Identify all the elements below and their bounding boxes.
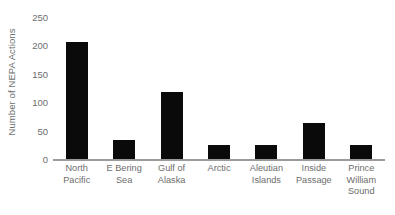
bar [66, 42, 88, 160]
y-tick-label: 0 [18, 155, 48, 165]
y-tick-label: 50 [18, 127, 48, 137]
x-axis-labels: North PacificE Bering SeaGulf of AlaskaA… [53, 163, 385, 213]
y-tick-label: 250 [18, 13, 48, 23]
y-tick-label: 150 [18, 70, 48, 80]
bar [113, 140, 135, 160]
bar [208, 145, 230, 160]
bar [161, 92, 183, 160]
bar [303, 123, 325, 160]
plot-area [53, 18, 385, 160]
y-axis-ticks: 050100150200250 [18, 0, 48, 215]
bar-chart: Number of NEPA Actions 050100150200250 N… [0, 0, 395, 215]
y-tick-label: 200 [18, 41, 48, 51]
x-axis-line [53, 159, 385, 161]
bar [255, 145, 277, 160]
bar [350, 145, 372, 160]
x-axis-label: Prince William Sound [334, 163, 389, 198]
y-tick-label: 100 [18, 98, 48, 108]
